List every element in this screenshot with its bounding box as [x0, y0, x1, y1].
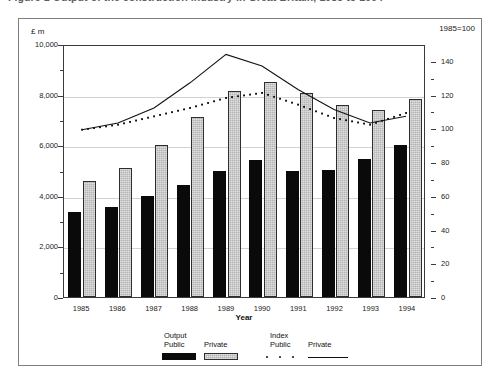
x-axis-label-1986: 1986 — [97, 304, 137, 313]
left-tick-major — [58, 247, 63, 248]
chart-page: Figure 1 Output of the construction indu… — [0, 0, 500, 383]
x-axis-label-1991: 1991 — [278, 304, 318, 313]
page-title: Figure 1 Output of the construction indu… — [8, 0, 383, 3]
legend-label-index-public: Public — [270, 340, 290, 349]
right-tick-major — [431, 197, 436, 198]
x-axis-label-1989: 1989 — [206, 304, 246, 313]
left-tick-minor — [60, 121, 63, 122]
right-tick-major — [431, 129, 436, 130]
right-tick-major — [431, 96, 436, 97]
right-tick-minor — [431, 146, 434, 147]
right-tick-major — [431, 163, 436, 164]
legend-label-index-private: Private — [308, 340, 331, 349]
right-tick-minor — [431, 79, 434, 80]
right-tick-label: 140 — [441, 57, 469, 66]
left-tick-minor — [60, 273, 63, 274]
x-axis-label-1987: 1987 — [134, 304, 174, 313]
left-tick-major — [58, 298, 63, 299]
right-tick-major — [431, 264, 436, 265]
right-tick-label: 40 — [441, 226, 469, 235]
right-tick-minor — [431, 281, 434, 282]
right-tick-label: 100 — [441, 124, 469, 133]
right-tick-minor — [431, 112, 434, 113]
legend-label-output-private: Private — [204, 340, 227, 349]
right-tick-label: 80 — [441, 158, 469, 167]
chart-legend: Output Index Public Private Public Priva… — [150, 331, 365, 363]
figure-title-clipped: Figure 1 Output of the construction indu… — [0, 0, 500, 9]
left-tick-major — [58, 146, 63, 147]
x-axis-label-1992: 1992 — [315, 304, 355, 313]
right-tick-label: 20 — [441, 259, 469, 268]
right-tick-minor — [431, 180, 434, 181]
left-tick-label: 0 — [22, 293, 58, 302]
x-axis-label-1993: 1993 — [351, 304, 391, 313]
legend-swatch-output-private — [204, 353, 238, 360]
line-index-public — [81, 92, 407, 131]
right-tick-label: 0 — [441, 293, 469, 302]
right-tick-major — [431, 231, 436, 232]
right-tick-minor — [431, 247, 434, 248]
line-index-private — [82, 54, 406, 129]
plot-inner — [64, 46, 424, 297]
x-axis-label-1994: 1994 — [387, 304, 427, 313]
left-tick-minor — [60, 222, 63, 223]
legend-group-output: Output — [164, 331, 187, 340]
right-tick-major — [431, 62, 436, 63]
left-tick-minor — [60, 172, 63, 173]
left-tick-major — [58, 197, 63, 198]
left-tick-label: 8,000 — [22, 91, 58, 100]
left-tick-label: 2,000 — [22, 242, 58, 251]
left-tick-label: 6,000 — [22, 141, 58, 150]
x-axis-label-1990: 1990 — [242, 304, 282, 313]
right-tick-major — [431, 298, 436, 299]
x-axis-label-1985: 1985 — [61, 304, 101, 313]
right-tick-minor — [431, 214, 434, 215]
plot-area — [63, 45, 425, 298]
left-tick-major — [58, 45, 63, 46]
right-tick-label: 60 — [441, 192, 469, 201]
legend-swatch-output-public — [162, 353, 196, 360]
legend-swatch-index-public — [266, 353, 302, 361]
left-tick-minor — [60, 70, 63, 71]
legend-swatch-index-private — [308, 353, 348, 361]
line-series-layer — [64, 46, 424, 297]
x-axis-label-1988: 1988 — [170, 304, 210, 313]
legend-label-output-public: Public — [164, 340, 184, 349]
right-tick-label: 120 — [441, 91, 469, 100]
left-tick-major — [58, 96, 63, 97]
legend-group-index: Index — [270, 331, 288, 340]
left-tick-label: 4,000 — [22, 192, 58, 201]
x-axis-title: Year — [63, 313, 425, 322]
left-axis-unit: £ m — [31, 27, 44, 36]
right-axis-unit: 1985=100 — [439, 24, 475, 33]
left-tick-label: 10,000 — [22, 40, 58, 49]
